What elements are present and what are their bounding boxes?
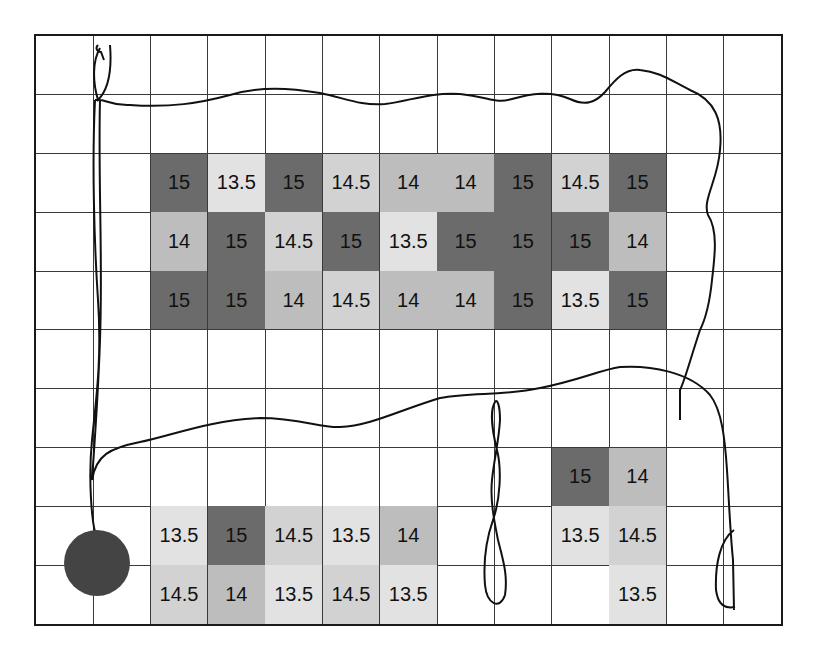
grid-cell-value: 13.5	[323, 506, 381, 565]
grid-cell-empty	[380, 448, 438, 507]
grid-cell-empty	[93, 448, 151, 507]
grid-cell-value: 15	[323, 212, 381, 271]
grid-cell-value: 15	[552, 212, 610, 271]
grid-cell-value: 13.5	[552, 506, 610, 565]
grid-cell-empty	[666, 212, 724, 271]
grid-cell-empty	[494, 36, 552, 95]
grid-cell-value: 15	[494, 271, 552, 330]
grid-cell-value: 15	[609, 154, 667, 213]
grid-cell-value: 14	[609, 212, 667, 271]
grid-cell-empty	[93, 36, 151, 95]
grid-cell-empty	[552, 330, 610, 389]
grid-cell-empty	[609, 389, 667, 448]
grid-cell-empty	[208, 36, 266, 95]
grid-cell-empty	[93, 271, 151, 330]
grid-cell-value: 14	[151, 212, 209, 271]
grid-cell-empty	[323, 389, 381, 448]
grid-cell-value: 14.5	[323, 271, 381, 330]
grid-cell-empty	[666, 506, 724, 565]
grid-cell-value: 14.5	[265, 212, 323, 271]
grid-cell-empty	[36, 330, 94, 389]
grid-cell-empty	[151, 36, 209, 95]
grid-cell-empty	[437, 330, 495, 389]
grid-cell-empty	[437, 448, 495, 507]
measurement-grid: 1513.51514.514141514.515141514.51513.515…	[34, 34, 783, 626]
grid-cell-empty	[552, 95, 610, 154]
grid-cell-value: 13.5	[552, 271, 610, 330]
grid-cell-empty	[36, 448, 94, 507]
grid-cell-empty	[36, 389, 94, 448]
grid-cell-empty	[666, 271, 724, 330]
grid-cell-empty	[208, 389, 266, 448]
grid-cell-empty	[323, 330, 381, 389]
grid-cell-empty	[208, 448, 266, 507]
grid-cell-value: 14	[437, 154, 495, 213]
grid-cell-empty	[724, 271, 781, 330]
grid-cell-empty	[151, 389, 209, 448]
grid-cell-empty	[724, 506, 781, 565]
grid-cell-value: 13.5	[208, 154, 266, 213]
grid-cell-value: 14.5	[323, 154, 381, 213]
grid-cell-empty	[609, 95, 667, 154]
grid-cell-empty	[93, 506, 151, 565]
grid-cell-value: 13.5	[609, 565, 667, 624]
grid-cell-empty	[36, 154, 94, 213]
grid-cell-value: 15	[609, 271, 667, 330]
grid-cell-empty	[666, 95, 724, 154]
grid-cell-empty	[724, 389, 781, 448]
grid-cell-empty	[552, 36, 610, 95]
grid-cell-empty	[93, 212, 151, 271]
grid-cell-empty	[36, 95, 94, 154]
grid-cell-empty	[494, 506, 552, 565]
grid-cell-empty	[36, 212, 94, 271]
grid-cell-value: 13.5	[380, 212, 438, 271]
grid-cell-value: 13.5	[265, 565, 323, 624]
grid-cell-value: 15	[208, 212, 266, 271]
grid-cell-empty	[93, 154, 151, 213]
grid-cell-value: 14.5	[151, 565, 209, 624]
grid-cell-empty	[265, 448, 323, 507]
grid-cell-empty	[494, 389, 552, 448]
grid-cell-empty	[494, 565, 552, 624]
grid-cell-empty	[494, 95, 552, 154]
grid-cell-empty	[666, 154, 724, 213]
grid-cell-empty	[724, 330, 781, 389]
grid-cell-value: 14	[380, 154, 438, 213]
grid-cell-value: 14	[265, 271, 323, 330]
grid-cell-empty	[494, 330, 552, 389]
grid-cell-empty	[724, 36, 781, 95]
grid-cell-value: 15	[151, 271, 209, 330]
grid-cell-value: 13.5	[151, 506, 209, 565]
grid-cell-value: 15	[494, 154, 552, 213]
grid-cell-empty	[437, 36, 495, 95]
grid-cell-empty	[724, 212, 781, 271]
grid-cell-empty	[265, 330, 323, 389]
grid-cell-empty	[36, 36, 94, 95]
grid-cell-empty	[666, 330, 724, 389]
grid-cell-empty	[323, 95, 381, 154]
grid-cell-empty	[609, 330, 667, 389]
grid-cell-empty	[724, 448, 781, 507]
grid-cell-empty	[323, 36, 381, 95]
grid-cell-empty	[151, 95, 209, 154]
grid-cell-value: 14	[208, 565, 266, 624]
grid-cell-empty	[437, 565, 495, 624]
grid-cell-empty	[380, 36, 438, 95]
grid-cell-empty	[609, 36, 667, 95]
grid-cell-empty	[208, 95, 266, 154]
grid-cell-empty	[666, 565, 724, 624]
grid-cell-empty	[552, 389, 610, 448]
grid-cell-empty	[93, 389, 151, 448]
grid-cell-empty	[208, 330, 266, 389]
grid-cell-value: 14.5	[609, 506, 667, 565]
grid-cell-empty	[380, 389, 438, 448]
grid-cell-value: 15	[208, 506, 266, 565]
grid-cell-empty	[437, 95, 495, 154]
grid-cell-value: 14	[609, 448, 667, 507]
grid-cell-value: 14	[437, 271, 495, 330]
grid-cell-value: 14.5	[323, 565, 381, 624]
grid-cell-empty	[494, 448, 552, 507]
grid-cell-empty	[36, 506, 94, 565]
grid-cell-value: 15	[437, 212, 495, 271]
grid-cell-empty	[36, 271, 94, 330]
